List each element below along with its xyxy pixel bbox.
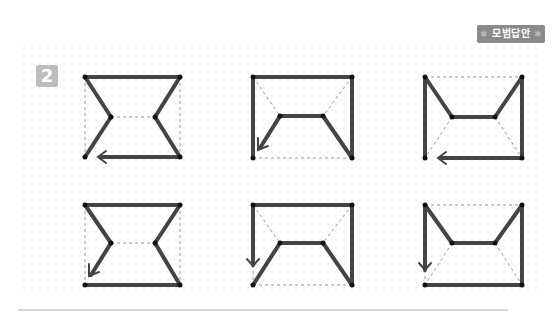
figure-r2c2 (247, 203, 355, 288)
bottom-divider (18, 309, 508, 311)
figure-r1c1 (83, 75, 183, 164)
figure-r1c2 (251, 75, 355, 161)
figure-r2c1 (83, 203, 183, 288)
figure-r1c3 (423, 75, 525, 165)
figure-r2c3 (419, 203, 525, 288)
figures-canvas: .s { stroke:#444; stroke-width:4; fill:n… (0, 0, 560, 325)
